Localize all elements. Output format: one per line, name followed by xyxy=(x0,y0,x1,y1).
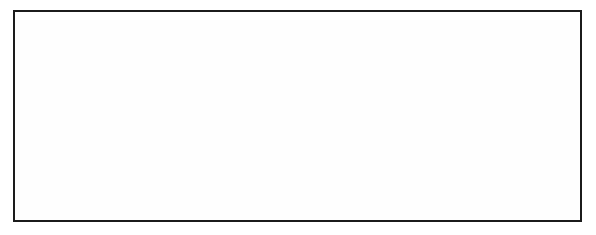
figure-canvas xyxy=(0,0,596,235)
waveform-plot xyxy=(15,12,580,220)
figure-frame xyxy=(13,10,582,222)
